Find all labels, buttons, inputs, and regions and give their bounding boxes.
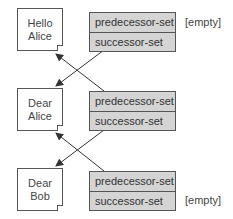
successor-arrow-1	[56, 50, 104, 86]
set-box-1: predecessor-set successor-set	[89, 12, 176, 52]
document-text-line2: Alice	[28, 110, 52, 123]
successor-set-label: successor-set	[90, 191, 175, 210]
predecessor-arrow-2	[56, 133, 104, 171]
document-text-line2: Alice	[28, 30, 52, 43]
document-dear-alice: Dear Alice	[17, 88, 63, 131]
predecessor-set-label: predecessor-set	[90, 92, 175, 111]
set-box-2: predecessor-set successor-set	[89, 91, 176, 131]
page-fold-icon	[57, 125, 63, 131]
successor-arrow-2	[56, 130, 104, 166]
predecessor-set-label: predecessor-set	[90, 13, 175, 32]
document-text-line1: Hello	[27, 17, 52, 30]
set-box-3: predecessor-set successor-set	[89, 171, 176, 211]
document-hello-alice: Hello Alice	[17, 8, 63, 51]
figure-caption	[15, 213, 210, 219]
predecessor-set-label: predecessor-set	[90, 172, 175, 191]
page-fold-icon	[57, 45, 63, 51]
empty-note: [empty]	[185, 194, 221, 206]
document-dear-bob: Dear Bob	[17, 168, 63, 211]
page-fold-icon	[57, 205, 63, 211]
predecessor-arrow-1	[56, 54, 104, 91]
empty-note: [empty]	[185, 16, 221, 28]
document-text-line1: Dear	[28, 97, 52, 110]
document-text-line1: Dear	[28, 177, 52, 190]
document-text-line2: Bob	[30, 190, 50, 203]
successor-set-label: successor-set	[90, 111, 175, 130]
successor-set-label: successor-set	[90, 32, 175, 51]
